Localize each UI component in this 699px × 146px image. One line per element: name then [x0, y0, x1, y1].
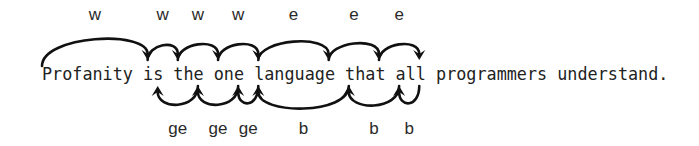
motion-label: b	[299, 119, 308, 138]
vim-motion-diagram: wwwweee gegegebbb Profanity is the one l…	[0, 0, 699, 146]
motion-arc-w	[42, 39, 148, 66]
motion-label: w	[156, 5, 170, 24]
forward-motion-arcs: wwwweee	[42, 5, 425, 66]
motion-arc-b	[399, 86, 419, 103]
motion-arc-b	[349, 86, 399, 106]
motion-label: w	[231, 5, 245, 24]
motion-label: b	[369, 119, 378, 138]
backward-motion-arcs: gegegebbb	[152, 86, 420, 138]
motion-arc-w	[218, 44, 258, 60]
motion-arc-w	[178, 44, 218, 60]
motion-label: ge	[239, 119, 258, 138]
motion-arc-ge	[198, 86, 238, 105]
motion-label: e	[349, 5, 358, 24]
motion-arc-b	[258, 86, 349, 109]
motion-label: e	[289, 5, 298, 24]
motion-label: e	[394, 5, 403, 24]
motion-label: ge	[168, 119, 187, 138]
motion-label: w	[88, 5, 102, 24]
motion-arc-e	[329, 43, 379, 60]
example-sentence: Profanity is the one language that all p…	[42, 64, 668, 84]
motion-label: ge	[209, 119, 228, 138]
motion-arc-e	[258, 41, 328, 60]
motion-label: b	[404, 119, 413, 138]
motion-arc-ge	[238, 86, 258, 103]
motion-arc-ge	[158, 86, 198, 105]
motion-arc-e	[379, 44, 419, 60]
motion-label: w	[191, 5, 205, 24]
